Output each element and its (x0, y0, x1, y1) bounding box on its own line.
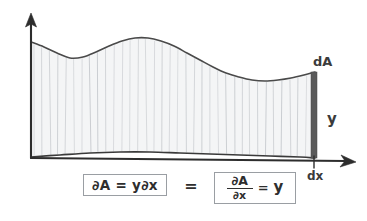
derivative-expression: ∂A ∂x = y (227, 174, 284, 202)
label-dA: dA (313, 54, 332, 69)
differential-strip-dA (311, 72, 317, 158)
fraction-denominator: ∂x (230, 189, 249, 202)
label-y: y (327, 110, 337, 128)
label-dx: dx (307, 169, 324, 183)
fraction-numerator: ∂A (228, 174, 250, 188)
formula-equals-sign: = (180, 175, 202, 195)
figure-canvas: dA y dx ∂A = y∂x = ∂A ∂x = y (0, 0, 367, 221)
derivative-result: y (274, 180, 284, 195)
formula-box-differential: ∂A = y∂x (83, 174, 167, 196)
formula-box-derivative: ∂A ∂x = y (214, 172, 296, 204)
derivative-equals-sign: = (258, 181, 269, 194)
formula-left-text: ∂A = y∂x (92, 177, 158, 193)
fraction: ∂A ∂x (227, 174, 253, 202)
horizontal-axis-arrow (31, 158, 346, 161)
